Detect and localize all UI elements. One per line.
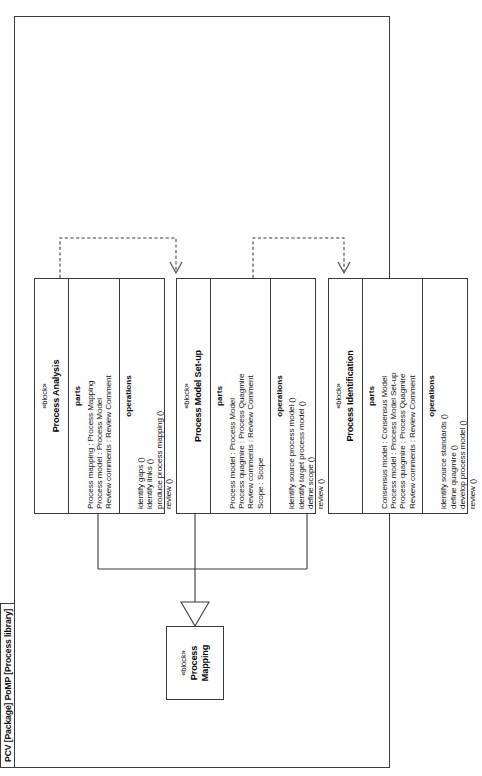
part-item: Consensus model : Consensus Model: [380, 283, 389, 509]
part-item: Process model : Process Model Set-up: [389, 283, 398, 509]
block-header: «block» Process Model Set-up: [177, 279, 211, 513]
parts-heading: parts: [215, 283, 224, 509]
operation-item: identify target process model (): [297, 283, 306, 509]
operations-compartment: operations identify gaps () identify lin…: [119, 279, 179, 513]
part-item: Process quagmire : Process Quagmire: [398, 283, 407, 509]
operation-item: develop process model (): [458, 283, 467, 509]
block-title: Process Model Set-up: [193, 283, 203, 509]
operations-compartment: operations identify source standards () …: [422, 279, 482, 513]
operations-heading: operations: [427, 283, 436, 509]
part-item: Process model : Process Model: [95, 283, 104, 509]
part-item: Review comments : Review Comment: [408, 283, 417, 509]
part-item: Process model : Process Model: [228, 283, 237, 509]
operation-item: produce process mapping (): [155, 283, 164, 509]
part-item: Review comments : Review Comment: [104, 283, 113, 509]
block-process-model-set-up[interactable]: «block» Process Model Set-up parts Proce…: [176, 278, 316, 514]
block-title: Process Identification: [345, 283, 355, 509]
parts-compartment: parts Consensus model : Consensus Model …: [363, 279, 422, 513]
operation-item: define scope (): [306, 283, 315, 509]
block-process-analysis[interactable]: «block» Process Analysis parts Process m…: [34, 278, 165, 514]
operation-item: review (): [316, 283, 325, 509]
operation-item: identify gaps (): [136, 283, 145, 509]
parts-compartment: parts Process model : Process Model Proc…: [211, 279, 270, 513]
block-process-mapping[interactable]: «block» Process Mapping: [166, 626, 224, 700]
operations-heading: operations: [275, 283, 284, 509]
stereotype-label: «block»: [183, 283, 192, 509]
block-header: «block» Process Mapping: [180, 627, 211, 699]
operation-item: review (): [164, 283, 173, 509]
stereotype-label: «block»: [180, 627, 189, 699]
operation-item: define quagmire (): [449, 283, 458, 509]
parts-heading: parts: [367, 283, 376, 509]
operation-item: review (): [468, 283, 477, 509]
block-header: «block» Process Analysis: [35, 279, 69, 513]
operation-item: identify links (): [145, 283, 154, 509]
part-item: Review comments : Review Comment: [246, 283, 255, 509]
block-process-identification[interactable]: «block» Process Identification parts Con…: [328, 278, 468, 514]
block-title: Process Analysis: [51, 283, 61, 509]
operations-compartment: operations identify source process model…: [270, 279, 330, 513]
stereotype-label: «block»: [335, 283, 344, 509]
parts-heading: parts: [73, 283, 82, 509]
operation-item: identify source standards (): [439, 283, 448, 509]
block-title: Process Mapping: [189, 627, 210, 699]
package-label: PCV [Package] PoMP [Process library]: [0, 603, 15, 768]
operations-heading: operations: [124, 283, 133, 509]
parts-compartment: parts Process mapping : Process Mapping …: [69, 279, 119, 513]
block-header: «block» Process Identification: [329, 279, 363, 513]
part-item: Process mapping : Process Mapping: [86, 283, 95, 509]
part-item: Scope : Scope: [256, 283, 265, 509]
stereotype-label: «block»: [41, 283, 50, 509]
operation-item: identify source process model (): [287, 283, 296, 509]
part-item: Process quagmire : Process Quagmire: [237, 283, 246, 509]
